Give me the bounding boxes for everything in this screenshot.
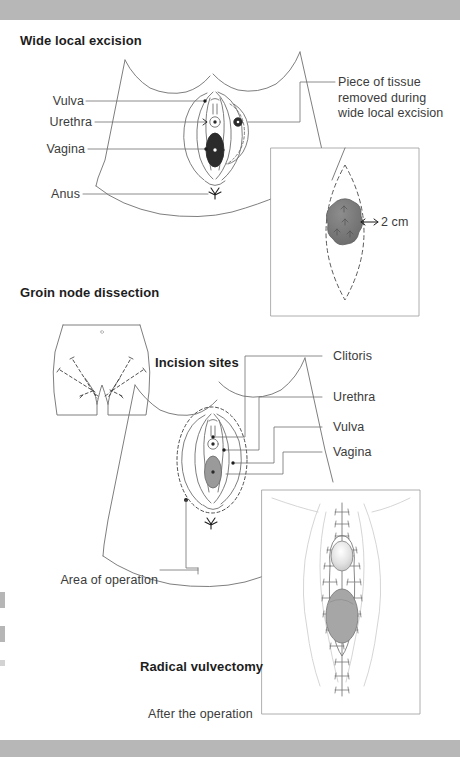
- heading-groin-node-dissection: Groin node dissection: [20, 285, 159, 301]
- vulvectomy-vagina-node: [326, 589, 358, 643]
- label-incision-sites: Incision sites: [155, 355, 239, 371]
- label-2-cm: 2 cm: [381, 215, 409, 231]
- label-area-of-operation: Area of operation: [10, 573, 158, 589]
- vulvectomy-clitoris-node: [331, 541, 353, 571]
- wle-vulva-figure: [184, 92, 243, 186]
- label-clitoris: Clitoris: [333, 349, 372, 365]
- label-vagina-2: Vagina: [333, 445, 372, 461]
- wle-inset-tumour: [326, 199, 362, 245]
- label-urethra-1: Urethra: [6, 115, 92, 131]
- heading-radical-vulvectomy: Radical vulvectomy: [140, 659, 263, 675]
- gnd-anus-marker: [205, 518, 217, 529]
- heading-wide-local-excision: Wide local excision: [20, 33, 142, 49]
- groin-torso-outline: [53, 325, 150, 415]
- caption-after-the-operation: After the operation: [148, 707, 253, 723]
- groin-incision-ticks: [57, 357, 146, 398]
- wle-anus-marker: [209, 188, 221, 199]
- label-anus: Anus: [6, 187, 80, 203]
- callout-piece-of-tissue: Piece of tissueremoved duringwide local …: [338, 75, 460, 122]
- label-vulva-2: Vulva: [333, 420, 364, 436]
- diagram-page: Wide local excision Vulva Urethra Vagina…: [0, 0, 460, 757]
- wle-excision-region: [226, 104, 248, 164]
- groin-incision-lines: [60, 360, 143, 398]
- label-vulva-1: Vulva: [6, 94, 84, 110]
- label-vagina-1: Vagina: [6, 142, 85, 158]
- label-urethra-2: Urethra: [333, 390, 375, 406]
